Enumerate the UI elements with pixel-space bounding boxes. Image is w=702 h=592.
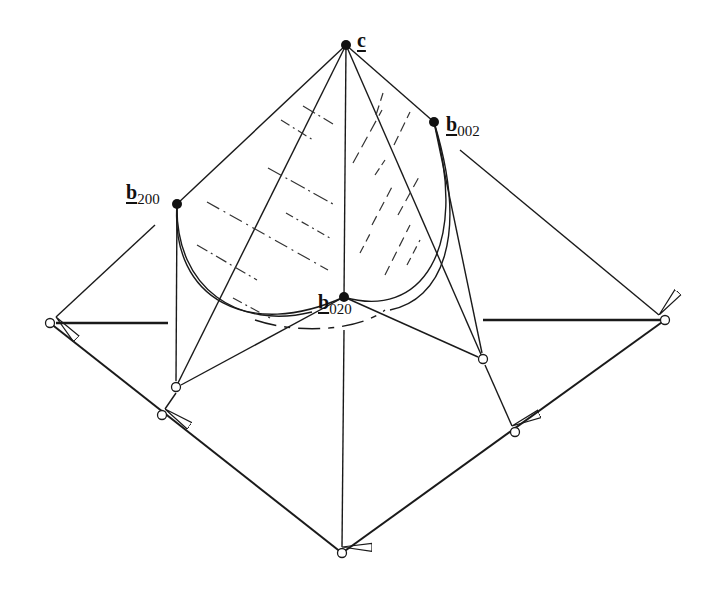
edge-c-left-proj bbox=[176, 45, 346, 387]
point-outer-left bbox=[46, 319, 55, 328]
label-c-main: c bbox=[357, 29, 366, 51]
point-outer-bottom bbox=[338, 549, 347, 558]
curve-b020-b002 bbox=[344, 122, 446, 301]
arrow-right-proj bbox=[485, 365, 512, 426]
outer-edge-left-bottom bbox=[50, 323, 342, 553]
point-b200 bbox=[172, 199, 182, 209]
label-c: c bbox=[357, 30, 366, 50]
label-b200-main: b bbox=[126, 181, 137, 203]
edge-b020-right-proj bbox=[344, 297, 478, 357]
outer-edge-right-bottom bbox=[342, 320, 665, 553]
hatching bbox=[197, 93, 420, 318]
edge-c-right-proj bbox=[346, 45, 483, 359]
edge-b200-down bbox=[176, 204, 177, 381]
edge-c-b200 bbox=[177, 45, 346, 204]
label-b020: b020 bbox=[318, 292, 352, 312]
arrow-b020-outer-bottom bbox=[342, 330, 344, 547]
point-outer-right bbox=[661, 316, 670, 325]
projected-points bbox=[46, 316, 670, 558]
arrow-b200-outer-left bbox=[56, 225, 155, 317]
point-proj-left-outer bbox=[158, 411, 167, 420]
label-b020-sub: 020 bbox=[329, 301, 352, 317]
point-proj-right-inner bbox=[479, 355, 488, 364]
arrow-b002-outer-right bbox=[460, 150, 659, 315]
edge-c-b002 bbox=[346, 45, 434, 122]
label-b002-sub: 002 bbox=[457, 123, 480, 139]
curve-b200-b020-lower bbox=[177, 204, 312, 316]
point-proj-left-inner bbox=[172, 383, 181, 392]
edge-c-b020 bbox=[344, 45, 346, 297]
point-proj-right-outer bbox=[511, 428, 520, 437]
arrow-left-proj bbox=[165, 393, 176, 409]
point-b002 bbox=[429, 117, 439, 127]
label-b200-sub: 200 bbox=[137, 191, 160, 207]
edge-b002-down bbox=[434, 122, 482, 353]
point-c bbox=[341, 40, 351, 50]
label-b020-main: b bbox=[318, 291, 329, 313]
label-b002: b002 bbox=[446, 114, 480, 134]
label-b002-main: b bbox=[446, 113, 457, 135]
label-b200: b200 bbox=[126, 182, 160, 202]
